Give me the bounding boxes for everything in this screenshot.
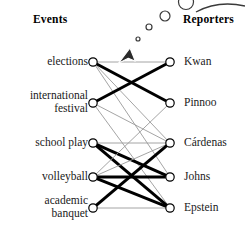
event-label-academic_banquet: academicbanquet: [45, 194, 88, 220]
reporter-label-kwan: Kwan: [184, 55, 211, 68]
label-line: Johns: [184, 170, 210, 183]
event-label-volleyball: volleyball: [42, 170, 88, 183]
label-line: festival: [30, 102, 88, 115]
label-line: volleyball: [42, 170, 88, 183]
event-label-international_festival: internationalfestival: [30, 89, 88, 115]
event-label-elections: elections: [47, 55, 88, 68]
label-line: Pinnoo: [184, 96, 217, 109]
bipartite-graph-visualization: Events Reporters electionsinternationalf…: [0, 0, 245, 226]
label-line: banquet: [45, 207, 88, 220]
label-line: elections: [47, 55, 88, 68]
reporter-label-cardenas: Cárdenas: [184, 136, 227, 149]
label-line: school play: [35, 136, 88, 149]
event-label-school_play: school play: [35, 136, 88, 149]
label-line: academic: [45, 194, 88, 207]
reporter-label-epstein: Epstein: [184, 201, 219, 214]
reporter-label-pinnoo: Pinnoo: [184, 96, 217, 109]
label-line: Cárdenas: [184, 136, 227, 149]
label-line: Kwan: [184, 55, 211, 68]
label-line: international: [30, 89, 88, 102]
reporter-label-johns: Johns: [184, 170, 210, 183]
node-labels-layer: electionsinternationalfestivalschool pla…: [0, 0, 245, 226]
label-line: Epstein: [184, 201, 219, 214]
